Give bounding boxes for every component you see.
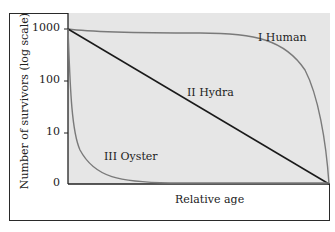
x-axis-label: Relative age	[175, 193, 244, 206]
human-label: I Human	[258, 31, 307, 44]
tick-label-0: 0	[30, 176, 60, 189]
tick-label-100: 100	[30, 73, 60, 86]
y-axis-label: Number of survivors (log scale)	[18, 13, 31, 189]
tick-label-10: 10	[30, 125, 60, 138]
hydra-label: II Hydra	[187, 86, 234, 99]
oyster-label: III Oyster	[104, 150, 158, 163]
tick-label-1000: 1000	[30, 21, 60, 34]
